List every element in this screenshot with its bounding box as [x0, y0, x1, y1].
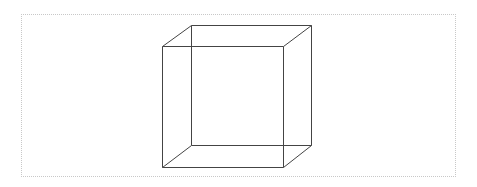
connector-bottom-left: [163, 146, 192, 168]
connector-top-right: [284, 26, 312, 47]
wireframe-cube: [0, 0, 477, 187]
connector-top-left: [163, 26, 192, 47]
connector-bottom-right: [284, 146, 312, 168]
